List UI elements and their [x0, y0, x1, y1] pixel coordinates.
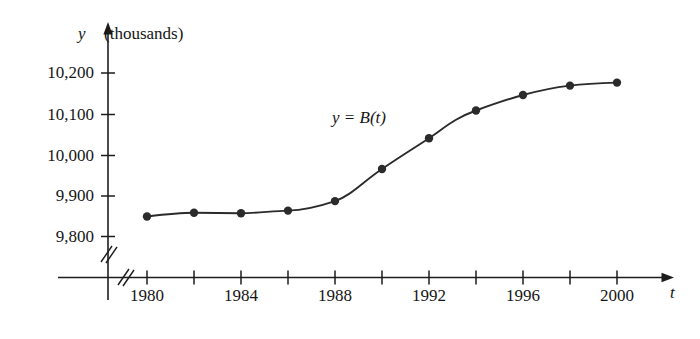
- data-point: [190, 209, 198, 217]
- data-point: [472, 106, 480, 114]
- y-tick-label: 9,900: [0, 186, 94, 206]
- y-axis-break-icon: [101, 246, 117, 263]
- x-tick-label: 1996: [506, 286, 540, 306]
- data-point: [143, 212, 151, 220]
- x-tick-label: 1988: [318, 286, 352, 306]
- data-point: [425, 134, 433, 142]
- y-tick-label: 9,800: [0, 227, 94, 247]
- y-tick-label: 10,200: [0, 63, 94, 83]
- x-tick-label: 2000: [600, 286, 634, 306]
- x-tick-label: 1984: [224, 286, 258, 306]
- y-tick-label: 10,100: [0, 105, 94, 125]
- data-curve: [147, 83, 617, 217]
- data-point: [566, 81, 574, 89]
- y-axis-unit-caption: (thousands): [104, 24, 183, 44]
- y-axis-variable-label: y: [78, 24, 86, 44]
- y-tick-label: 10,000: [0, 146, 94, 166]
- x-tick-label: 1992: [412, 286, 446, 306]
- data-point: [519, 91, 527, 99]
- y-axis: [101, 22, 117, 300]
- data-point: [378, 165, 386, 173]
- x-axis-variable-label: t: [670, 283, 675, 303]
- data-point-markers: [143, 78, 621, 220]
- data-point: [331, 197, 339, 205]
- curve-equation-label: y = B(t): [332, 108, 386, 128]
- data-point: [284, 206, 292, 214]
- data-point: [613, 78, 621, 86]
- chart-figure: y (thousands) t y = B(t) 10,200 10,100 1…: [0, 0, 700, 339]
- data-point: [237, 209, 245, 217]
- x-axis: [58, 269, 674, 286]
- x-tick-label: 1980: [130, 286, 164, 306]
